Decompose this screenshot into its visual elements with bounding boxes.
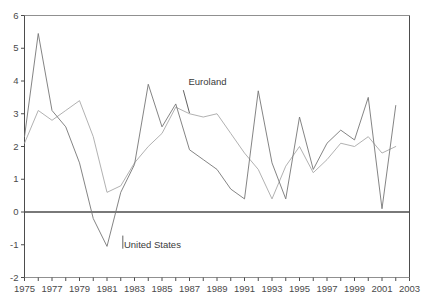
- y-axis-tick-label: 0: [0, 207, 19, 217]
- y-axis-tick-label: -2: [0, 273, 19, 283]
- euroland-annotation: Euroland: [189, 77, 227, 87]
- euroland-leader-line: [183, 90, 189, 113]
- series-line-united-states: [25, 34, 396, 247]
- y-axis-tick-label: 5: [0, 43, 19, 53]
- y-axis-tick-label: 4: [0, 76, 19, 86]
- chart-container: 6543210-1-2 1975197719791981198319851987…: [0, 0, 426, 308]
- y-axis-tick-label: 2: [0, 142, 19, 152]
- y-axis-tick-label: 3: [0, 109, 19, 119]
- united-states-annotation: United States: [124, 240, 181, 250]
- y-axis-tick-label: 6: [0, 11, 19, 21]
- chart-plot-area: [0, 0, 426, 308]
- y-axis-tick-label: 1: [0, 174, 19, 184]
- x-axis-tick-label: 2003: [394, 284, 426, 294]
- y-axis-tick-label: -1: [0, 240, 19, 250]
- series-line-euroland: [25, 101, 396, 199]
